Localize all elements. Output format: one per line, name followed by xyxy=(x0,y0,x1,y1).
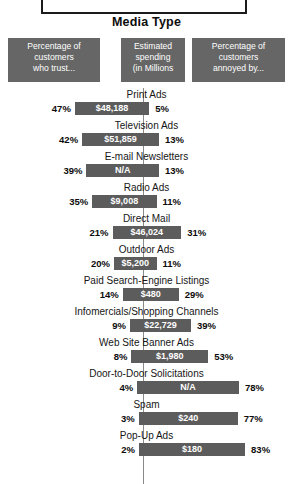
row-trust-percent: 21% xyxy=(79,226,109,239)
row-annoyed-percent: 31% xyxy=(187,226,221,239)
chart-row: Outdoor Ads$5,20020%11% xyxy=(0,243,293,274)
chart-plot-area: Print Ads$48,18847%5%Television Ads$51,8… xyxy=(0,88,293,484)
row-annoyed-percent: 53% xyxy=(214,350,248,363)
row-annoyed-percent: 83% xyxy=(251,443,285,456)
row-bar: $9,008 xyxy=(92,195,156,208)
row-trust-percent: 20% xyxy=(80,257,110,270)
chart-row: Pop-Up Ads$1802%83% xyxy=(0,429,293,460)
row-category-label: Web Site Banner Ads xyxy=(0,336,293,349)
row-category-label: Paid Search-Engine Listings xyxy=(0,274,293,287)
row-bar: $48,188 xyxy=(75,102,149,115)
chart-row: Infomercials/Shopping Channels$22,7299%3… xyxy=(0,305,293,336)
row-annoyed-percent: 39% xyxy=(197,319,231,332)
row-category-label: Spam xyxy=(0,398,293,411)
row-trust-percent: 2% xyxy=(105,443,135,456)
row-trust-percent: 39% xyxy=(52,164,82,177)
legend-trust-line-3: who trust... xyxy=(8,63,100,74)
chart-row: E-mail NewslettersN/A39%13% xyxy=(0,150,293,181)
chart-row: Direct Mail$46,02421%31% xyxy=(0,212,293,243)
row-annoyed-percent: 13% xyxy=(165,164,199,177)
row-bar: $22,729 xyxy=(130,319,191,332)
legend-spending-line-2: spending xyxy=(121,52,185,63)
chart-row: Television Ads$51,85942%13% xyxy=(0,119,293,150)
legend-trust: Percentage of customers who trust... xyxy=(8,38,100,82)
row-trust-percent: 3% xyxy=(105,412,135,425)
row-category-label: Radio Ads xyxy=(0,181,293,194)
row-category-label: Direct Mail xyxy=(0,212,293,225)
row-bar: $1,980 xyxy=(131,350,208,363)
row-annoyed-percent: 78% xyxy=(245,381,279,394)
row-trust-percent: 9% xyxy=(96,319,126,332)
row-bar: N/A xyxy=(86,164,159,177)
row-category-label: Television Ads xyxy=(0,119,293,132)
legend-spending: Estimated spending (in Millions xyxy=(121,38,185,82)
row-trust-percent: 47% xyxy=(41,102,71,115)
chart-row: Print Ads$48,18847%5% xyxy=(0,88,293,119)
top-title-box xyxy=(41,0,247,14)
row-bar: $5,200 xyxy=(114,257,157,270)
row-bar: $51,859 xyxy=(82,133,159,146)
legend-spending-line-3: (in Millions xyxy=(121,63,185,74)
row-annoyed-percent: 29% xyxy=(185,288,219,301)
chart-row: Door-to-Door SolicitationsN/A4%78% xyxy=(0,367,293,398)
row-annoyed-percent: 11% xyxy=(163,195,197,208)
row-bar: $46,024 xyxy=(113,226,182,239)
row-annoyed-percent: 5% xyxy=(155,102,189,115)
row-trust-percent: 4% xyxy=(103,381,133,394)
row-bar: $180 xyxy=(139,443,245,456)
row-annoyed-percent: 13% xyxy=(165,133,199,146)
row-trust-percent: 35% xyxy=(58,195,88,208)
legend-trust-line-2: customers xyxy=(8,52,100,63)
chart-row: Radio Ads$9,00835%11% xyxy=(0,181,293,212)
row-bar: N/A xyxy=(137,381,239,394)
legend-annoyed-line-1: Percentage of xyxy=(192,41,285,52)
row-category-label: Outdoor Ads xyxy=(0,243,293,256)
row-trust-percent: 14% xyxy=(89,288,119,301)
row-category-label: E-mail Newsletters xyxy=(0,150,293,163)
row-trust-percent: 42% xyxy=(48,133,78,146)
chart-row: Web Site Banner Ads$1,9808%53% xyxy=(0,336,293,367)
row-category-label: Door-to-Door Solicitations xyxy=(0,367,293,380)
page-title: Media Type xyxy=(0,15,293,29)
legend-trust-line-1: Percentage of xyxy=(8,41,100,52)
legend-annoyed-line-2: customers xyxy=(192,52,285,63)
chart-row: Paid Search-Engine Listings$48014%29% xyxy=(0,274,293,305)
legend-annoyed-line-3: annoyed by... xyxy=(192,63,285,74)
row-annoyed-percent: 11% xyxy=(163,257,197,270)
row-category-label: Print Ads xyxy=(0,88,293,101)
legend-annoyed: Percentage of customers annoyed by... xyxy=(192,38,285,82)
row-bar: $480 xyxy=(123,288,179,301)
row-category-label: Infomercials/Shopping Channels xyxy=(0,305,293,318)
row-trust-percent: 8% xyxy=(97,350,127,363)
row-category-label: Pop-Up Ads xyxy=(0,429,293,442)
chart-row: Spam$2403%77% xyxy=(0,398,293,429)
row-bar: $240 xyxy=(139,412,238,425)
row-annoyed-percent: 77% xyxy=(244,412,278,425)
legend-spending-line-1: Estimated xyxy=(121,41,185,52)
